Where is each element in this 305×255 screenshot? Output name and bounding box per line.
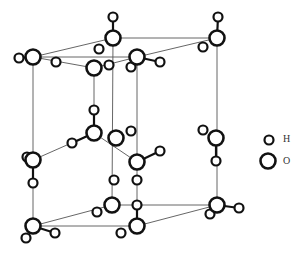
- hydrogen-atom-icon: [105, 61, 114, 70]
- hydrogen-atom-icon: [127, 127, 136, 136]
- hydrogen-atom-icon: [110, 176, 119, 185]
- oxygen-atom-icon: [130, 219, 145, 234]
- hydrogen-atom-icon: [199, 126, 208, 135]
- oxygen-atom-icon: [210, 31, 225, 46]
- oxygen-atom-icon: [26, 219, 41, 234]
- hydrogen-atom-icon: [212, 157, 221, 166]
- hydrogen-atom-icon: [68, 139, 77, 148]
- oxygen-atom-icon: [130, 155, 145, 170]
- hydrogen-legend-icon: [265, 136, 274, 145]
- hydrogen-atom-icon: [29, 179, 38, 188]
- hydrogen-atom-icon: [109, 13, 118, 22]
- lattice-lines: [33, 38, 217, 226]
- oxygen-atom-icon: [109, 131, 124, 146]
- hydrogen-atom-icon: [199, 43, 208, 52]
- hydrogen-atom-icon: [15, 54, 24, 63]
- hydrogen-atom-icon: [214, 13, 223, 22]
- oxygen-atom-icon: [210, 198, 225, 213]
- hydrogen-atom-icon: [235, 204, 244, 213]
- oxygen-atom-icon: [26, 153, 41, 168]
- oxygen-atom-icon: [87, 126, 102, 141]
- oxygen-atom-icon: [106, 31, 121, 46]
- oxygen-atom-icon: [130, 50, 145, 65]
- hydrogen-atom-icon: [52, 58, 61, 67]
- hydrogen-atom-icon: [95, 45, 104, 54]
- hydrogen-atom-icon: [156, 147, 165, 156]
- oxygen-legend-icon: [261, 154, 276, 169]
- hydrogen-atom-icon: [90, 106, 99, 115]
- hydrogen-atom-icon: [93, 208, 102, 217]
- hydrogen-atom-icon: [133, 201, 142, 210]
- oxygen-legend-label: O: [283, 155, 290, 166]
- ice-crystal-structure-diagram: [0, 0, 305, 255]
- oxygen-atom-icon: [209, 131, 224, 146]
- hydrogen-atom-icon: [117, 229, 126, 238]
- hydrogen-atom-icon: [156, 58, 165, 67]
- hydrogen-atom-icon: [22, 234, 31, 243]
- atoms: [15, 13, 244, 243]
- hydrogen-atom-icon: [51, 229, 60, 238]
- hydrogen-atom-icon: [133, 176, 142, 185]
- oxygen-atom-icon: [87, 61, 102, 76]
- legend: [261, 136, 276, 169]
- hydrogen-legend-label: H: [283, 133, 290, 144]
- oxygen-atom-icon: [105, 198, 120, 213]
- oxygen-atom-icon: [26, 50, 41, 65]
